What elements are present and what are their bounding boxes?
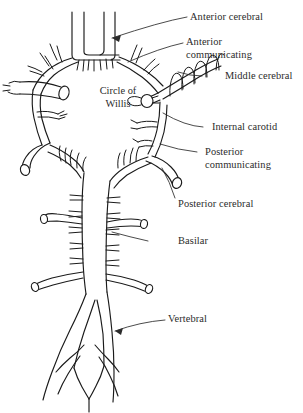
label-basilar: Basilar	[178, 235, 208, 248]
label-posterior-communicating-line1: Posterior	[205, 146, 271, 159]
anterior-perforator-branches	[77, 59, 113, 71]
cerebral-arterial-circle-drawing	[0, 0, 303, 413]
right-descending-carotid-trunk	[131, 102, 167, 157]
center-label-circle-of-willis: Circle of Willis	[88, 84, 148, 110]
anterior-spinal-artery-junction	[56, 345, 119, 412]
label-anterior-communicating-line1: Anterior	[186, 36, 252, 49]
vertebral-arteries	[43, 292, 114, 402]
label-internal-carotid: Internal carotid	[212, 121, 277, 134]
left-anterior-limb	[28, 44, 78, 94]
posterior-cerebral-artery-right	[110, 156, 183, 190]
anterior-inferior-cerebellar-arteries	[40, 214, 148, 229]
label-posterior-cerebral: Posterior cerebral	[178, 198, 253, 211]
basilar-top-perforators	[59, 146, 139, 171]
label-vertebral: Vertebral	[168, 313, 207, 326]
label-anterior-communicating: Anterior communicating	[186, 36, 252, 61]
basilar-artery-trunk	[82, 173, 110, 294]
label-posterior-communicating-line2: communicating	[205, 159, 271, 172]
basilar-right-pontine-branches	[106, 197, 120, 266]
label-middle-cerebral: Middle cerebral	[225, 70, 293, 83]
posterior-inferior-cerebellar-arteries	[30, 272, 154, 294]
label-anterior-cerebral: Anterior cerebral	[190, 11, 263, 24]
basilar-left-pontine-branches	[69, 195, 83, 264]
label-anterior-communicating-line2: communicating	[186, 49, 252, 62]
anterior-cerebral-artery-group	[72, 12, 120, 60]
left-internal-carotid-stump	[3, 81, 71, 101]
center-label-line1: Circle of	[88, 84, 148, 97]
label-posterior-communicating: Posterior communicating	[205, 146, 271, 171]
posterior-cerebral-artery-left	[19, 143, 84, 178]
center-label-line2: Willis	[88, 97, 148, 110]
circle-of-willis-figure: Circle of Willis Anterior cerebral Anter…	[0, 0, 303, 413]
